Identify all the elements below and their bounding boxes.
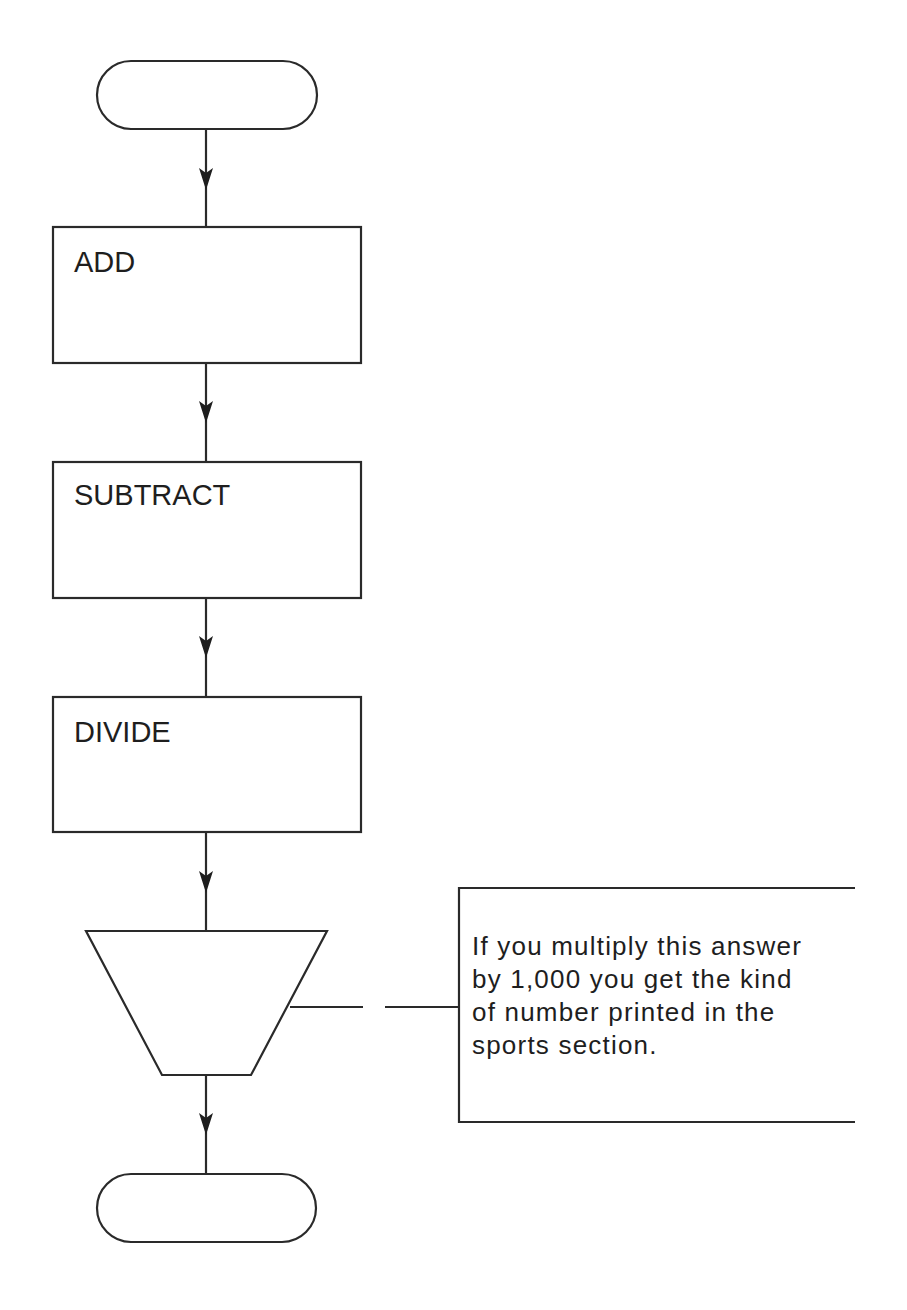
arrow-subtract-to-divide <box>199 598 213 697</box>
arrow-output-to-end <box>199 1075 213 1173</box>
manual-operation-trapezoid <box>86 931 327 1075</box>
flowchart-canvas <box>0 0 907 1310</box>
process-label-divide: DIVIDE <box>74 718 171 747</box>
annotation-line: of number printed in the <box>472 996 892 1029</box>
process-label-add: ADD <box>74 248 135 277</box>
arrow-add-to-subtract <box>199 363 213 462</box>
start-terminator <box>97 61 317 129</box>
arrow-start-to-add <box>199 129 213 227</box>
process-label-subtract: SUBTRACT <box>74 481 230 510</box>
annotation-line: by 1,000 you get the kind <box>472 963 892 996</box>
annotation-line: If you multiply this answer <box>472 930 892 963</box>
annotation-line: sports section. <box>472 1029 892 1062</box>
end-terminator <box>97 1174 316 1242</box>
arrow-divide-to-output <box>199 832 213 931</box>
annotation-note: If you multiply this answer by 1,000 you… <box>472 930 892 1062</box>
